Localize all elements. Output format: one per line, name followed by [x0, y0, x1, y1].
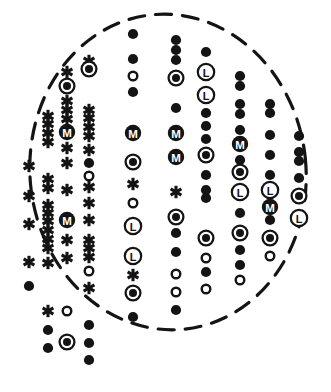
bullseye-icon — [292, 189, 307, 204]
open-circle-icon — [172, 270, 181, 279]
bullseye-icon — [126, 155, 141, 170]
bullseye-icon — [60, 79, 75, 94]
circled-l-icon: L — [198, 64, 214, 80]
filled-circle-icon — [128, 29, 138, 39]
filled-circle-icon — [235, 99, 245, 109]
circled-l-icon: L — [125, 218, 141, 234]
bullseye-icon — [169, 71, 184, 86]
filled-circle-icon — [265, 170, 275, 180]
open-circle-icon — [129, 199, 138, 208]
filled-circle-icon — [294, 173, 304, 183]
figure-root: MMMLLMMLLMLLML — [0, 0, 331, 392]
circled-m-icon: M — [168, 149, 184, 165]
symbol-cluster-diagram: MMMLLMMLLMLLML — [0, 0, 331, 392]
svg-text:L: L — [267, 185, 274, 197]
open-circle-icon — [172, 288, 181, 297]
filled-circle-icon — [201, 170, 211, 180]
filled-circle-icon — [265, 150, 275, 160]
filled-circle-icon — [201, 47, 211, 57]
circled-l-icon: L — [262, 182, 278, 198]
bullseye-icon — [233, 165, 248, 180]
svg-text:L: L — [130, 251, 137, 263]
filled-circle-icon — [201, 193, 211, 203]
filled-circle-icon — [201, 121, 211, 131]
svg-text:M: M — [62, 215, 72, 227]
filled-circle-icon — [128, 312, 138, 322]
filled-circle-icon — [265, 130, 275, 140]
filled-circle-icon — [235, 208, 245, 218]
open-circle-icon — [129, 72, 138, 81]
svg-text:M: M — [128, 128, 138, 140]
circled-m-icon: M — [59, 124, 75, 140]
open-circle-icon — [85, 172, 94, 181]
bullseye-icon — [126, 286, 141, 301]
filled-circle-icon — [201, 108, 211, 118]
circled-l-icon: L — [232, 184, 248, 200]
filled-circle-icon — [235, 260, 245, 270]
open-circle-icon — [63, 307, 72, 316]
circled-l-icon: L — [291, 210, 307, 226]
bullseye-icon — [199, 148, 214, 163]
svg-text:M: M — [171, 128, 181, 140]
bullseye-icon — [60, 335, 75, 350]
svg-text:L: L — [237, 187, 244, 199]
filled-circle-icon — [235, 71, 245, 81]
filled-circle-icon — [235, 109, 245, 119]
circled-m-icon: M — [232, 136, 248, 152]
open-circle-icon — [236, 276, 245, 285]
svg-text:L: L — [203, 90, 210, 102]
filled-circle-icon — [128, 87, 138, 97]
filled-circle-icon — [171, 55, 181, 65]
filled-circle-icon — [294, 156, 304, 166]
open-circle-icon — [85, 267, 94, 276]
filled-circle-icon — [294, 147, 304, 157]
svg-text:M: M — [265, 202, 275, 214]
filled-circle-icon — [201, 134, 211, 144]
filled-circle-icon — [171, 45, 181, 55]
filled-circle-icon — [171, 228, 181, 238]
filled-circle-icon — [171, 305, 181, 315]
svg-text:L: L — [130, 221, 137, 233]
filled-circle-icon — [265, 108, 275, 118]
open-circle-icon — [202, 254, 211, 263]
filled-circle-icon — [24, 281, 34, 291]
circled-m-icon: M — [262, 199, 278, 215]
filled-circle-icon — [294, 131, 304, 141]
filled-circle-icon — [235, 81, 245, 91]
bullseye-icon — [263, 231, 278, 246]
filled-circle-icon — [43, 343, 53, 353]
filled-circle-icon — [235, 245, 245, 255]
filled-circle-icon — [84, 158, 94, 168]
filled-circle-icon — [201, 267, 211, 277]
open-circle-icon — [266, 252, 275, 261]
circled-l-icon: L — [198, 87, 214, 103]
filled-circle-icon — [84, 338, 94, 348]
svg-text:M: M — [62, 127, 72, 139]
svg-text:M: M — [235, 139, 245, 151]
filled-circle-icon — [84, 355, 94, 365]
bullseye-icon — [199, 231, 214, 246]
circled-l-icon: L — [125, 248, 141, 264]
filled-circle-icon — [171, 35, 181, 45]
svg-text:L: L — [203, 67, 210, 79]
bullseye-icon — [233, 226, 248, 241]
filled-circle-icon — [265, 215, 275, 225]
filled-circle-icon — [265, 99, 275, 109]
circled-m-icon: M — [125, 125, 141, 141]
svg-text:L: L — [296, 213, 303, 225]
filled-circle-icon — [128, 54, 138, 64]
filled-circle-icon — [43, 325, 53, 335]
bullseye-icon — [169, 210, 184, 225]
open-circle-icon — [202, 285, 211, 294]
bullseye-icon — [82, 62, 97, 77]
filled-circle-icon — [171, 247, 181, 257]
filled-circle-icon — [235, 125, 245, 135]
svg-text:M: M — [171, 152, 181, 164]
circled-m-icon: M — [59, 212, 75, 228]
circled-m-icon: M — [168, 125, 184, 141]
filled-circle-icon — [84, 320, 94, 330]
filled-circle-icon — [171, 103, 181, 113]
